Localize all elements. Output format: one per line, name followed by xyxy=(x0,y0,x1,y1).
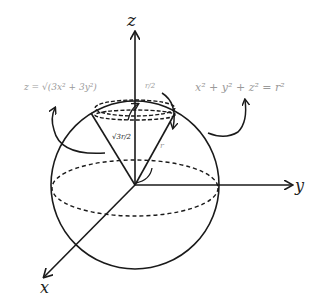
angle-arrow-top xyxy=(128,104,138,120)
z-axis-label: z xyxy=(127,10,136,30)
x-axis-label: x xyxy=(40,278,49,297)
cone-right-edge xyxy=(135,113,175,185)
radius-label: r xyxy=(160,141,164,150)
cone-height-label: √3r/2 xyxy=(112,133,131,141)
cone-equation-label: z = √(3x² + 3y²) xyxy=(24,82,97,92)
sphere-callout-arrow xyxy=(208,100,246,136)
y-axis-label: y xyxy=(295,176,304,195)
x-axis xyxy=(44,185,135,277)
cone-left-edge xyxy=(91,113,135,185)
half-r-label: r/2 xyxy=(145,82,155,90)
sphere-equation-label: x² + y² + z² = r² xyxy=(195,81,285,94)
sphere-cone-diagram xyxy=(0,0,322,308)
